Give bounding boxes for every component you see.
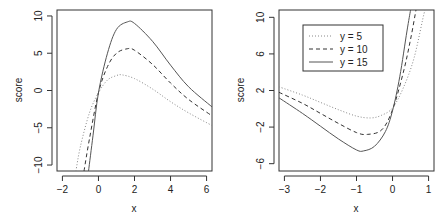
left-x-axis: −20246 <box>57 176 210 195</box>
left-panel: −20246 −10−50510 x score <box>13 10 212 214</box>
right-y-tick-label: −6 <box>255 158 266 170</box>
left-x-tick-label: 2 <box>132 184 138 195</box>
right-x-tick-label: 1 <box>426 184 432 195</box>
chart-canvas: −20246 −10−50510 x score −3−2−101 −6−226… <box>0 0 448 222</box>
right-y-axis: −6−22610 <box>255 11 274 169</box>
right-x-tick-label: −1 <box>351 184 363 195</box>
right-x-tick-label: −3 <box>279 184 291 195</box>
left-x-tick-label: 0 <box>96 184 102 195</box>
left-y-tick-label: −10 <box>33 156 44 173</box>
left-series-solid <box>89 21 212 171</box>
left-y-tick-label: 10 <box>33 10 44 22</box>
left-y-tick-label: 5 <box>33 50 44 56</box>
legend: y = 5 y = 10 y = 15 <box>303 25 383 71</box>
left-y-tick-label: −5 <box>33 122 44 134</box>
left-y-axis-title: score <box>13 77 24 102</box>
right-panel: −3−2−101 −6−22610 x score y = 5 y = 10 y… <box>235 6 434 214</box>
right-x-axis: −3−2−101 <box>279 176 432 195</box>
left-series-group <box>76 21 212 171</box>
right-y-tick-label: 2 <box>255 87 266 93</box>
left-y-axis: −10−50510 <box>33 10 52 174</box>
right-y-tick-label: −2 <box>255 121 266 133</box>
left-x-tick-label: 6 <box>204 184 210 195</box>
left-x-tick-label: 4 <box>168 184 174 195</box>
left-series-dashed <box>84 48 212 171</box>
right-x-axis-title: x <box>354 203 359 214</box>
left-x-axis-title: x <box>132 203 137 214</box>
right-y-axis-title: score <box>235 77 246 102</box>
right-x-tick-label: 0 <box>390 184 396 195</box>
right-y-tick-label: 10 <box>255 11 266 23</box>
legend-label-y15: y = 15 <box>340 57 368 68</box>
legend-label-y5: y = 5 <box>340 31 362 42</box>
left-y-tick-label: 0 <box>33 87 44 93</box>
right-x-tick-label: −2 <box>315 184 327 195</box>
legend-label-y10: y = 10 <box>340 44 368 55</box>
left-x-tick-label: −2 <box>57 184 69 195</box>
right-y-tick-label: 6 <box>255 51 266 57</box>
